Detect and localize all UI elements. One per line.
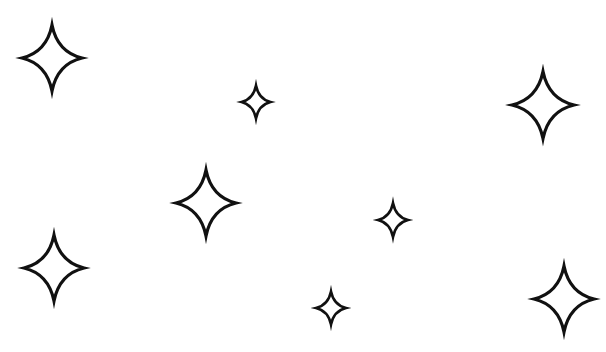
sparkle-canvas <box>0 0 606 352</box>
background <box>0 0 606 352</box>
